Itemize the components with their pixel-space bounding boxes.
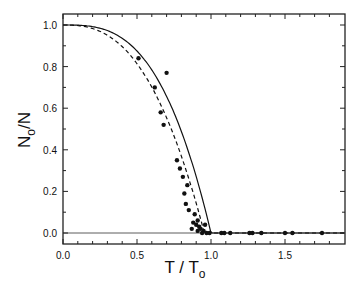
data-point bbox=[190, 227, 194, 231]
data-point bbox=[259, 231, 263, 235]
data-point bbox=[195, 218, 199, 222]
data-point bbox=[207, 231, 211, 235]
curves bbox=[63, 25, 344, 233]
data-point bbox=[203, 222, 207, 226]
data-points bbox=[136, 56, 324, 235]
x-tick-label: 0.5 bbox=[130, 250, 144, 261]
solid-curve bbox=[63, 25, 344, 233]
chart: 0.00.51.01.50.00.20.40.60.81.0 T / To No… bbox=[0, 0, 362, 296]
data-point bbox=[195, 229, 199, 233]
plot-frame bbox=[63, 14, 345, 244]
y-tick-label: 0.8 bbox=[43, 62, 57, 73]
data-point bbox=[175, 158, 179, 162]
x-tick-label: 0.0 bbox=[56, 250, 70, 261]
data-point bbox=[320, 231, 324, 235]
y-tick-label: 0.4 bbox=[43, 145, 57, 156]
data-point bbox=[283, 231, 287, 235]
y-tick-label: 0.6 bbox=[43, 103, 57, 114]
data-point bbox=[136, 56, 140, 60]
y-tick-label: 0.0 bbox=[43, 228, 57, 239]
data-point bbox=[200, 231, 204, 235]
y-tick-label: 1.0 bbox=[43, 20, 57, 31]
data-point bbox=[228, 231, 232, 235]
y-tick-label: 0.2 bbox=[43, 186, 57, 197]
data-point bbox=[182, 191, 186, 195]
data-point bbox=[193, 212, 197, 216]
data-point bbox=[250, 231, 254, 235]
data-point bbox=[158, 110, 162, 114]
data-point bbox=[290, 231, 294, 235]
data-point bbox=[187, 208, 191, 212]
data-point bbox=[164, 71, 168, 75]
data-point bbox=[185, 183, 189, 187]
data-point bbox=[161, 123, 165, 127]
x-tick-label: 1.0 bbox=[204, 250, 218, 261]
data-point bbox=[181, 175, 185, 179]
x-tick-label: 1.5 bbox=[278, 250, 292, 261]
data-point bbox=[184, 202, 188, 206]
y-axis-title: No/N bbox=[15, 112, 38, 148]
data-point bbox=[178, 166, 182, 170]
data-point bbox=[153, 85, 157, 89]
x-axis-title: T / To bbox=[164, 258, 205, 281]
data-point bbox=[222, 231, 226, 235]
